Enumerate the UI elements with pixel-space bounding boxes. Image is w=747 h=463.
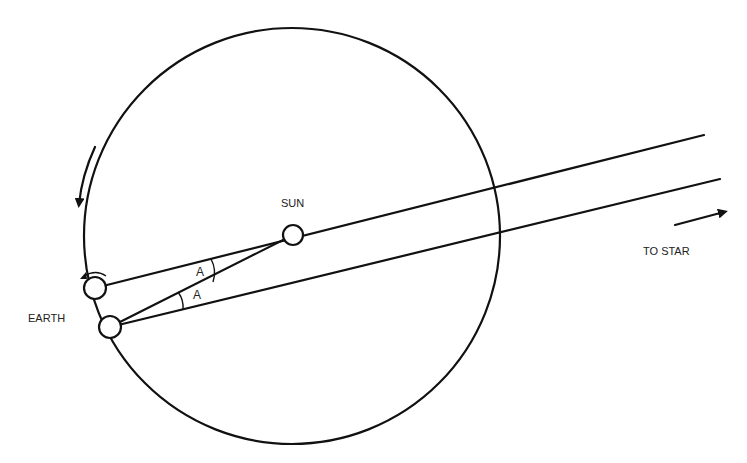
to-star-label: TO STAR [643, 245, 690, 257]
earth-position-2 [99, 316, 121, 338]
angle-label-upper: A [196, 265, 204, 279]
earth-label: EARTH [28, 312, 65, 324]
sun-circle [283, 225, 303, 245]
earth-sun-line [110, 235, 293, 327]
parallax-diagram: SUN EARTH TO STAR A A [0, 0, 747, 463]
angle-label-lower: A [193, 288, 201, 302]
sun-label: SUN [281, 197, 304, 209]
sightline-upper [95, 135, 704, 288]
earth-position-1 [84, 277, 106, 299]
angle-arc-lower [178, 292, 183, 310]
earth-rotation-arrowhead [80, 272, 87, 279]
sightline-lower [110, 179, 720, 327]
angle-arc-upper [211, 259, 215, 282]
to-star-arrow [675, 212, 724, 225]
